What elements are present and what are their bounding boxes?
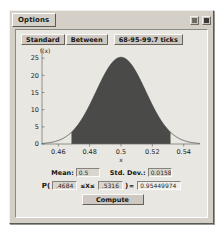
tab-689599-ticks[interactable]: 68-95-99.7 ticks — [114, 34, 183, 45]
probability-result: 0.95449974 — [137, 181, 181, 190]
tab-689599-ticks-label: 68-95-99.7 ticks — [119, 36, 178, 44]
upper-bound-input[interactable]: .5316 — [98, 181, 123, 190]
lower-bound-input[interactable]: .4684 — [52, 181, 77, 190]
tab-between-label: Between — [71, 36, 103, 44]
close-icon[interactable] — [202, 16, 211, 25]
tab-standard-label: Standard — [26, 36, 60, 44]
std-dev-label: Std. Dev.: — [110, 169, 146, 177]
inequality-label: ≤X≤ — [79, 182, 96, 189]
compute-button-label: Compute — [96, 196, 129, 204]
tab-standard[interactable]: Standard — [21, 34, 65, 45]
svg-text:0.48: 0.48 — [82, 148, 96, 156]
compute-button[interactable]: Compute — [82, 194, 144, 205]
mean-input[interactable]: 0.5 — [76, 168, 100, 177]
svg-text:5: 5 — [35, 123, 39, 131]
options-window: Options Standard Between 68-95-99.7 tick… — [9, 10, 214, 224]
probability-row: P( .4684 ≤X≤ .5316 ) = 0.95449974 — [16, 179, 209, 192]
distribution-chart: 05101520250.460.480.50.520.54f(x)x — [20, 47, 204, 164]
parameters-section: Mean: 0.5 Std. Dev.: 0.0158 P( .4684 ≤X≤… — [16, 166, 209, 205]
svg-text:10: 10 — [31, 106, 39, 114]
svg-text:25: 25 — [31, 54, 39, 62]
restore-icon[interactable] — [190, 16, 199, 25]
svg-text:f(x): f(x) — [40, 47, 50, 54]
mean-sd-row: Mean: 0.5 Std. Dev.: 0.0158 — [16, 166, 209, 179]
svg-text:x: x — [119, 156, 123, 163]
svg-text:0: 0 — [35, 140, 39, 148]
equals-sign: = — [128, 182, 135, 189]
std-dev-input[interactable]: 0.0158 — [148, 168, 172, 177]
compute-row: Compute — [16, 194, 209, 205]
svg-text:15: 15 — [31, 89, 39, 97]
tab-between[interactable]: Between — [66, 34, 108, 45]
probability-prefix: P( — [42, 182, 50, 190]
svg-text:0.46: 0.46 — [51, 148, 65, 156]
toolbar: Standard Between 68-95-99.7 ticks — [21, 34, 183, 45]
page-title: Options — [18, 16, 49, 24]
svg-text:0.52: 0.52 — [145, 148, 159, 156]
chart-canvas: 05101520250.460.480.50.520.54f(x)x — [20, 47, 204, 164]
svg-text:20: 20 — [31, 72, 39, 80]
content-panel: Standard Between 68-95-99.7 ticks 051015… — [15, 29, 208, 218]
svg-text:0.5: 0.5 — [116, 148, 126, 156]
window-title-tab[interactable]: Options — [12, 13, 56, 27]
title-bar: Options — [12, 13, 211, 27]
svg-text:0.54: 0.54 — [176, 148, 190, 156]
mean-label: Mean: — [51, 169, 74, 177]
